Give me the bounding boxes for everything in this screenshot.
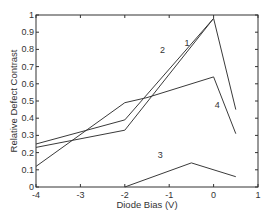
x-axis-label: Diode Bias (V)	[116, 199, 177, 210]
curve-label-4: 4	[215, 100, 220, 110]
y-tick-label: 0.4	[21, 113, 34, 123]
curve-labels: 1234	[158, 38, 220, 160]
x-tick-label: -3	[76, 190, 84, 200]
line-chart: -4-3-2-10100.10.20.30.40.50.60.70.80.91 …	[0, 0, 275, 219]
y-tick-label: 0.7	[21, 62, 34, 72]
plot-frame	[36, 15, 258, 187]
data-series	[36, 18, 236, 187]
y-tick-label: 0.5	[21, 96, 34, 106]
y-tick-label: 0	[29, 182, 34, 192]
y-axis-label: Relative Defect Contrast	[8, 49, 19, 152]
series-line-1	[36, 18, 236, 147]
y-tick-label: 0.1	[21, 165, 34, 175]
plot-area-border	[36, 15, 258, 187]
curve-label-3: 3	[158, 150, 163, 160]
curve-label-2: 2	[160, 45, 165, 55]
y-tick-label: 0.8	[21, 44, 34, 54]
x-tick-label: 0	[211, 190, 216, 200]
curve-label-1: 1	[184, 38, 189, 48]
y-tick-label: 0.2	[21, 148, 34, 158]
series-line-3	[125, 163, 236, 187]
x-tick-label: 1	[255, 190, 260, 200]
y-tick-label: 1	[29, 10, 34, 20]
y-tick-label: 0.6	[21, 79, 34, 89]
y-tick-label: 0.3	[21, 130, 34, 140]
series-line-4	[36, 77, 236, 166]
y-tick-label: 0.9	[21, 27, 34, 37]
